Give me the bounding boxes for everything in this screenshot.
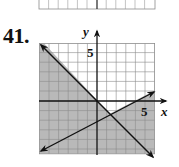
x-tick-label: 5: [141, 104, 148, 119]
inequality-graph: y 5 5 x: [0, 0, 179, 167]
x-axis-label: x: [160, 104, 168, 119]
previous-problem-grid: [39, 0, 155, 9]
y-axis-label: y: [81, 24, 89, 39]
y-tick-label: 5: [87, 45, 94, 60]
